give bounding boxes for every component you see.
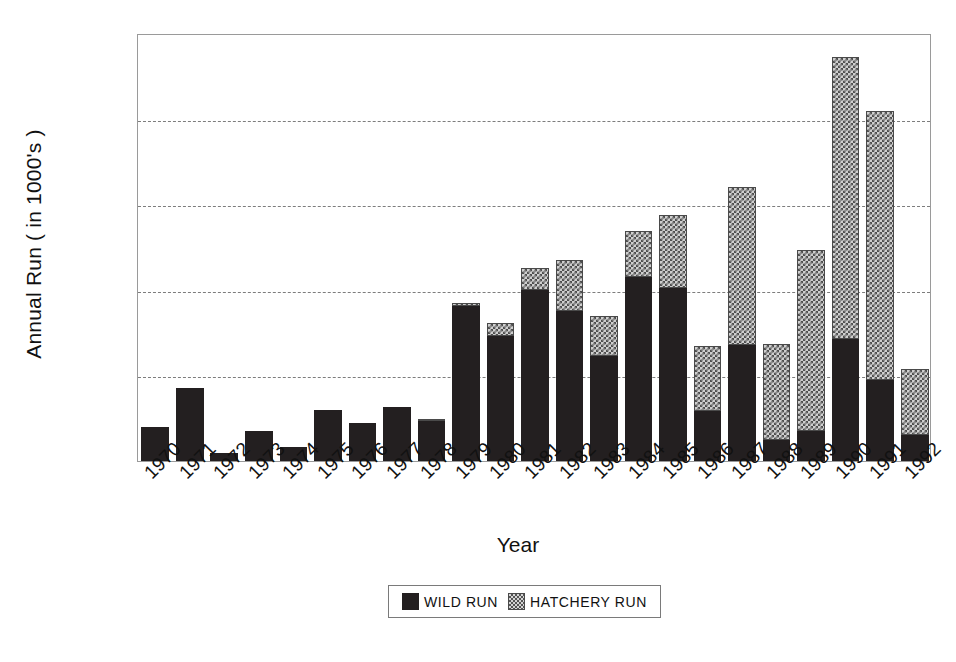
solid-black-swatch xyxy=(402,593,419,610)
bar-segment-wild-run[interactable] xyxy=(452,306,480,461)
bar-segment-hatchery-run[interactable] xyxy=(832,57,860,339)
legend-entry[interactable]: WILD RUN xyxy=(402,593,498,610)
x-axis-title-text: Year xyxy=(497,533,539,556)
x-axis-tick-labels: 1970197119721973197419751976197719781979… xyxy=(137,462,931,532)
bar-segment-hatchery-run[interactable] xyxy=(556,260,584,311)
bar-segment-hatchery-run[interactable] xyxy=(797,250,825,431)
bar-column[interactable] xyxy=(832,57,860,461)
checkered-gray-swatch xyxy=(508,593,525,610)
bar-segment-hatchery-run[interactable] xyxy=(694,346,722,410)
bar-column[interactable] xyxy=(521,268,549,461)
plot-area xyxy=(137,34,931,462)
bar-segment-hatchery-run[interactable] xyxy=(625,231,653,277)
bar-segment-hatchery-run[interactable] xyxy=(901,369,929,435)
y-axis-tick-labels: 010,00020,00030,00040,00050,000 xyxy=(0,0,127,662)
bar-segment-wild-run[interactable] xyxy=(625,277,653,461)
bar-column[interactable] xyxy=(556,260,584,461)
bar-column[interactable] xyxy=(797,250,825,461)
bar-column[interactable] xyxy=(487,323,515,461)
bar-column[interactable] xyxy=(590,315,618,461)
bar-segment-hatchery-run[interactable] xyxy=(452,303,480,306)
bar-segment-wild-run[interactable] xyxy=(659,288,687,461)
legend-label: WILD RUN xyxy=(424,594,498,610)
x-axis-title: Year xyxy=(0,533,956,557)
bar-segment-hatchery-run[interactable] xyxy=(487,323,515,336)
bar-segment-hatchery-run[interactable] xyxy=(521,268,549,289)
legend-entry[interactable]: HATCHERY RUN xyxy=(508,593,647,610)
bar-segment-hatchery-run[interactable] xyxy=(866,111,894,380)
bar-segment-hatchery-run[interactable] xyxy=(418,419,446,421)
bar-segment-wild-run[interactable] xyxy=(521,290,549,461)
bar-series-container xyxy=(138,35,930,461)
bar-segment-hatchery-run[interactable] xyxy=(728,187,756,345)
bar-column[interactable] xyxy=(659,215,687,461)
legend-label: HATCHERY RUN xyxy=(530,594,647,610)
bar-column[interactable] xyxy=(866,111,894,461)
bar-column[interactable] xyxy=(625,231,653,461)
bar-segment-hatchery-run[interactable] xyxy=(659,215,687,288)
bar-segment-hatchery-run[interactable] xyxy=(763,344,791,441)
bar-column[interactable] xyxy=(452,303,480,461)
chart-figure: Annual Run ( in 1000's ) 010,00020,00030… xyxy=(0,0,956,662)
bar-segment-wild-run[interactable] xyxy=(556,311,584,461)
bar-column[interactable] xyxy=(728,187,756,461)
chart-legend: WILD RUNHATCHERY RUN xyxy=(388,585,661,618)
bar-segment-hatchery-run[interactable] xyxy=(590,316,618,356)
